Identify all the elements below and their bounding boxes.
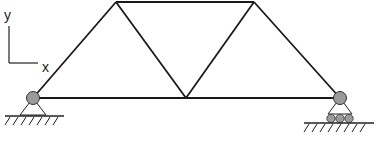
axis-indicator: y x <box>4 7 49 75</box>
truss-diagram: y x <box>0 0 376 143</box>
member-DE <box>254 2 340 98</box>
joint-pin-left <box>27 92 40 105</box>
joint-pin-right <box>334 92 347 105</box>
member-AB <box>33 2 116 98</box>
member-BC <box>116 2 186 98</box>
member-CD <box>186 2 254 98</box>
pin-support-left <box>5 92 64 126</box>
truss-members <box>33 2 340 98</box>
y-axis-label: y <box>4 7 11 23</box>
x-axis-label: x <box>42 59 49 75</box>
